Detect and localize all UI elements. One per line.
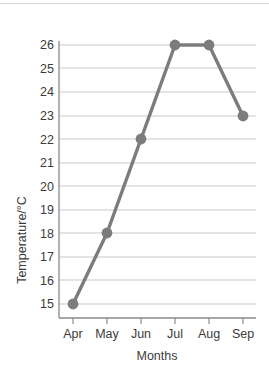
data-point-apr xyxy=(68,299,79,310)
x-tick-labels: Apr May Jun Jul Aug Sep xyxy=(63,327,254,341)
y-tick-labels: 26 25 24 23 22 21 20 19 18 17 16 15 xyxy=(40,38,54,311)
y-tick-label: 16 xyxy=(40,274,54,288)
chart-figure: 26 25 24 23 22 21 20 19 18 17 16 15 Apr … xyxy=(0,0,269,383)
y-tick-label: 19 xyxy=(40,203,54,217)
x-tick-label-jun: Jun xyxy=(131,327,151,341)
line-chart: 26 25 24 23 22 21 20 19 18 17 16 15 Apr … xyxy=(0,0,269,383)
x-tick-label-sep: Sep xyxy=(232,327,254,341)
series-line-temperature xyxy=(73,45,243,304)
x-tick-label-may: May xyxy=(95,327,119,341)
x-tick-label-aug: Aug xyxy=(198,327,220,341)
data-point-aug xyxy=(204,40,215,51)
y-tick-label: 21 xyxy=(40,156,54,170)
data-point-sep xyxy=(238,111,249,122)
data-point-jul xyxy=(170,40,181,51)
series-markers xyxy=(68,40,249,310)
data-point-may xyxy=(102,228,113,239)
x-tick-label-apr: Apr xyxy=(63,327,82,341)
y-axis-title: Temperature/°C xyxy=(15,196,29,284)
y-tick-label: 17 xyxy=(40,250,54,264)
x-axis-title: Months xyxy=(137,349,178,363)
y-tick-label: 24 xyxy=(40,85,54,99)
y-tick-label: 26 xyxy=(40,38,54,52)
x-tick-marks xyxy=(73,318,243,324)
y-tick-label: 20 xyxy=(40,180,54,194)
y-tick-label: 18 xyxy=(40,227,54,241)
y-tick-label: 25 xyxy=(40,62,54,76)
x-tick-label-jul: Jul xyxy=(167,327,183,341)
y-tick-label: 15 xyxy=(40,297,54,311)
y-tick-label: 22 xyxy=(40,133,54,147)
y-tick-label: 23 xyxy=(40,109,54,123)
data-point-jun xyxy=(136,134,147,145)
